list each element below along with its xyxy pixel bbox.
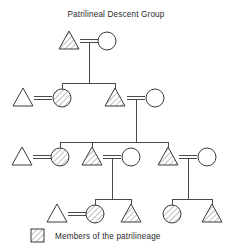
legend-label: Members of the patrilineage <box>55 232 161 241</box>
g3-wife-b-circle <box>198 148 216 166</box>
kinship-diagram: Patrilineal Descent Group <box>0 0 233 246</box>
generation-3-group <box>12 142 216 199</box>
g4-in-married-male-triangle <box>47 204 67 222</box>
g2-in-married-female-circle <box>146 89 164 107</box>
g2-son-triangle <box>105 88 125 106</box>
generation-2-group <box>13 83 164 142</box>
g1-marriage-link <box>80 39 98 42</box>
g2-marriage-left-link <box>34 96 52 99</box>
g4-daughter-right-circle <box>163 205 181 223</box>
g3-son-b-triangle <box>158 147 178 165</box>
g3-son-a-triangle <box>82 147 102 165</box>
legend: Members of the patrilineage <box>31 229 161 242</box>
hatched-square-icon <box>31 229 44 242</box>
page-title: Patrilineal Descent Group <box>67 10 164 19</box>
g3-marriage-mid-link <box>103 155 121 158</box>
g3-daughter-circle <box>51 148 69 166</box>
g3-marriage-left-link <box>33 155 51 158</box>
g2-in-married-male-triangle <box>13 88 33 106</box>
generation-1-group <box>59 31 116 83</box>
g3-marriage-right-link <box>179 155 197 158</box>
g2-marriage-right-link <box>127 96 145 99</box>
g1-male-triangle <box>59 31 79 49</box>
g4-marriage-left-link <box>68 212 86 215</box>
g1-female-circle <box>98 32 116 50</box>
generation-4-group <box>47 199 222 223</box>
g4-son-right-triangle <box>202 204 222 222</box>
g4-son-left-triangle <box>121 204 141 222</box>
g4-daughter-left-circle <box>86 205 104 223</box>
g3-in-married-male-triangle <box>12 147 32 165</box>
g2-daughter-circle <box>53 89 71 107</box>
kinship-diagram-canvas: Patrilineal Descent Group <box>0 0 233 246</box>
g3-wife-a-circle <box>122 148 140 166</box>
